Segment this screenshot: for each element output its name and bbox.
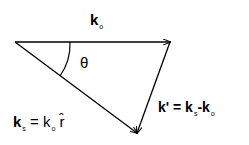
k-s-equation: ks = ko r̂ [13, 114, 65, 129]
theta-label: θ [80, 55, 88, 70]
k-o-label: ko [90, 12, 103, 27]
angle-arc [60, 42, 70, 76]
vector-diagram: ko θ ks = ko r̂ k' = ks-ko [0, 0, 249, 145]
k-prime-vector [137, 42, 170, 133]
k-prime-equation: k' = ks-ko [158, 100, 215, 114]
